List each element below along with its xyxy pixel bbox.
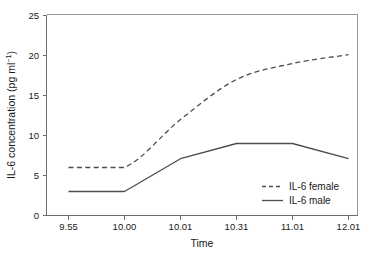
x-axis-tick-labels: 9.55 10.00 10.01 10.31 11.01 12.01 — [59, 221, 360, 232]
x-tick-label-0: 9.55 — [59, 221, 78, 232]
y-axis-tick-labels: 25 20 15 10 5 0 — [28, 10, 39, 221]
series-lines — [69, 55, 349, 192]
legend-label-il6-female: IL-6 female — [289, 181, 339, 192]
chart-figure: 25 20 15 10 5 0 IL-6 concentration (pg m… — [0, 0, 374, 256]
svg-text:IL-6 concentration (pg ml−1): IL-6 concentration (pg ml−1) — [4, 51, 18, 179]
y-tick-label-10: 10 — [28, 130, 39, 141]
y-tick-label-5: 5 — [34, 170, 39, 181]
y-tick-label-25: 25 — [28, 10, 39, 21]
x-tick-label-2: 10.01 — [169, 221, 193, 232]
y-axis-title-tail: ) — [5, 51, 17, 55]
y-axis-ticks — [43, 16, 47, 216]
y-axis-title: IL-6 concentration (pg ml−1) — [4, 51, 18, 179]
legend: IL-6 female IL-6 male — [262, 181, 339, 206]
y-axis: 25 20 15 10 5 0 IL-6 concentration (pg m… — [4, 10, 47, 221]
y-tick-label-0: 0 — [34, 210, 39, 221]
y-axis-title-main: IL-6 concentration (pg ml — [5, 63, 17, 179]
legend-label-il6-male: IL-6 male — [289, 195, 331, 206]
x-tick-label-4: 11.01 — [281, 221, 304, 232]
x-axis-ticks — [69, 216, 349, 220]
x-tick-label-3: 10.31 — [225, 221, 249, 232]
x-axis-title: Time — [191, 237, 214, 249]
y-tick-label-20: 20 — [28, 50, 39, 61]
il6-line-chart: 25 20 15 10 5 0 IL-6 concentration (pg m… — [0, 0, 374, 256]
y-tick-label-15: 15 — [28, 90, 39, 101]
x-tick-label-1: 10.00 — [113, 221, 137, 232]
y-axis-title-superscript: −1 — [4, 55, 13, 63]
x-axis: 9.55 10.00 10.01 10.31 11.01 12.01 Time — [47, 216, 361, 250]
x-tick-label-5: 12.01 — [337, 221, 361, 232]
